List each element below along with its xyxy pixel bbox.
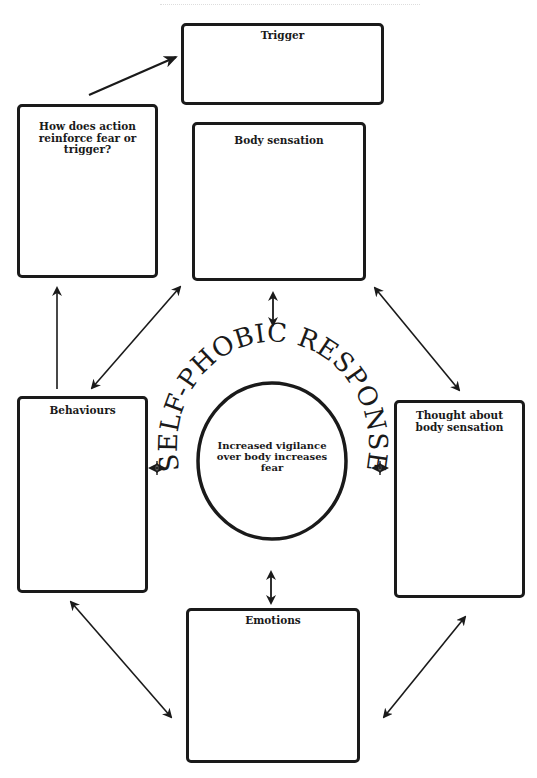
emotions-box[interactable]: Emotions: [186, 608, 360, 763]
trigger-box[interactable]: Trigger: [181, 23, 384, 105]
behaviours-label: Behaviours: [20, 405, 145, 417]
behaviours-box[interactable]: Behaviours: [17, 396, 148, 593]
thought-box[interactable]: Thought about body sensation: [394, 400, 525, 598]
body-sensation-box[interactable]: Body sensation: [192, 122, 366, 281]
reinforce-label: How does action reinforce fear or trigge…: [20, 121, 155, 156]
arrow-body-behaviours: [92, 287, 180, 388]
arrow-behaviours-emotions: [71, 602, 171, 717]
trigger-label: Trigger: [184, 30, 381, 42]
arrow-thought-emotions: [384, 617, 465, 717]
center-text: Increased vigilance over body increases …: [212, 440, 332, 473]
emotions-label: Emotions: [189, 615, 357, 627]
reinforce-box[interactable]: How does action reinforce fear or trigge…: [17, 104, 158, 278]
arrow-reinforce-to-trigger: [89, 57, 176, 95]
body-sensation-label: Body sensation: [195, 135, 363, 147]
arrow-body-thought: [375, 288, 459, 390]
thought-label: Thought about body sensation: [397, 410, 522, 433]
